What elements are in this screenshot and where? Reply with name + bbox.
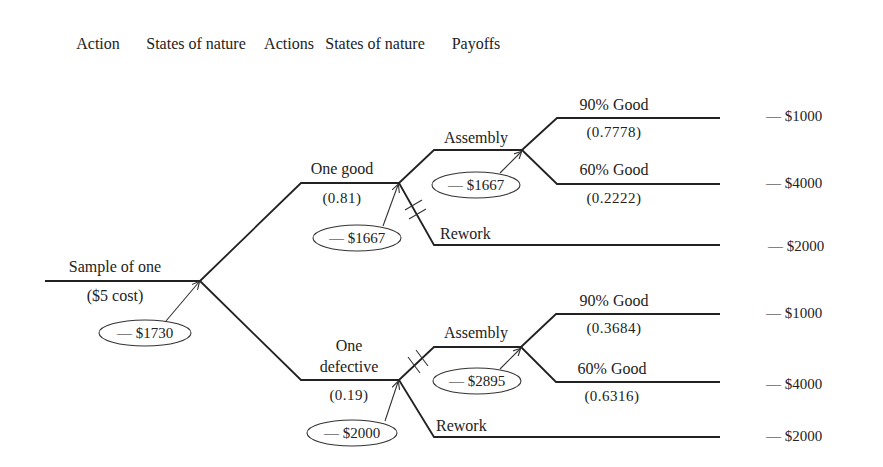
defective-assembly-ev: — $2895 (448, 373, 505, 389)
header-payoffs: Payoffs (452, 35, 501, 53)
defective-assembly-label: Assembly (444, 324, 508, 342)
decision-tree: Action States of nature Actions States o… (0, 0, 883, 467)
good-assembly-ev: — $1667 (447, 177, 505, 193)
good-90-payoff: — $1000 (765, 108, 822, 124)
root-branch: Sample of one ($5 cost) — $1730 (45, 258, 200, 346)
defective-rework-payoff: — $2000 (765, 428, 822, 444)
defective-90-payoff: — $1000 (765, 305, 822, 321)
defective-60-label: 60% Good (578, 360, 647, 377)
good-60-label: 60% Good (580, 161, 649, 178)
defective-60-payoff: — $4000 (765, 376, 822, 392)
good-60-probability: (0.2222) (586, 190, 641, 207)
good-probability: (0.81) (322, 190, 361, 207)
defective-rework-label: Rework (436, 417, 487, 434)
good-90-label: 90% Good (580, 96, 649, 113)
defective-label-line2: defective (320, 358, 379, 375)
good-label: One good (311, 160, 374, 178)
good-60-payoff: — $4000 (765, 175, 822, 191)
header-states-of-nature-1: States of nature (146, 35, 246, 52)
good-rework-prune-mark (405, 200, 426, 219)
defective-branch: One defective (0.19) — $2000 Assembly — … (200, 281, 822, 446)
root-ev: — $1730 (116, 325, 173, 341)
defective-90-probability: (0.3684) (586, 320, 641, 337)
header-actions: Actions (264, 35, 314, 52)
defective-90-label: 90% Good (580, 292, 649, 309)
good-90-probability: (0.7778) (586, 124, 641, 141)
root-cost: ($5 cost) (87, 287, 143, 305)
header-action: Action (76, 35, 120, 52)
good-assembly-label: Assembly (444, 129, 508, 147)
good-ev-arrow (383, 185, 398, 226)
good-ev: — $1667 (328, 230, 386, 246)
defective-probability: (0.19) (329, 387, 368, 404)
root-ev-arrow (166, 282, 199, 321)
good-assembly-ev-arrow (500, 152, 521, 173)
defective-ev-arrow (385, 382, 398, 421)
defective-assembly-ev-arrow (500, 349, 520, 369)
column-headers: Action States of nature Actions States o… (76, 35, 500, 53)
good-rework-payoff: — $2000 (767, 238, 824, 254)
defective-60-probability: (0.6316) (584, 388, 639, 405)
good-branch: One good (0.81) — $1667 Assembly — $1667… (200, 96, 824, 281)
root-label: Sample of one (69, 258, 161, 276)
defective-label-line1: One (336, 337, 363, 354)
good-rework-label: Rework (440, 225, 491, 242)
defective-ev: — $2000 (323, 425, 380, 441)
header-states-of-nature-2: States of nature (325, 35, 425, 52)
